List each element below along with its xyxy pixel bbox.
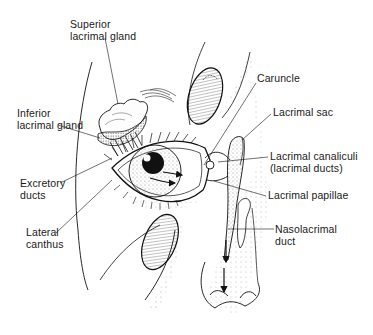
label-inferior-lacrimal-gland: Inferior lacrimal gland <box>17 107 83 131</box>
label-superior-lacrimal-gland: Superior lacrimal gland <box>70 18 136 42</box>
label-lacrimal-canaliculi: Lacrimal canaliculi (lacrimal ducts) <box>270 150 358 174</box>
eyebrow <box>140 89 176 102</box>
label-lateral-canthus: Lateral canthus <box>26 226 63 250</box>
label-nasolacrimal-duct: Nasolacrimal duct <box>275 223 337 247</box>
label-lacrimal-papillae: Lacrimal papillae <box>268 189 349 201</box>
leader-superior-gland <box>105 38 118 104</box>
label-caruncle: Caruncle <box>257 72 300 84</box>
upper-finger <box>181 42 255 129</box>
label-lacrimal-sac: Lacrimal sac <box>273 106 333 118</box>
leader-excretory-ducts <box>60 158 112 183</box>
label-excretory-ducts: Excretory ducts <box>20 177 65 201</box>
face-contour <box>76 62 92 290</box>
lower-finger <box>100 209 186 310</box>
